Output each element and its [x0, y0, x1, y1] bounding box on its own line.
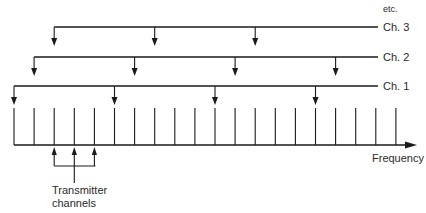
- channel-arrowhead: [152, 38, 158, 46]
- etc-label: etc.: [383, 4, 398, 14]
- frequency-slots: [14, 108, 396, 145]
- transmitter-bracket: [52, 147, 97, 183]
- transmitter-arrowhead: [72, 147, 77, 155]
- channel-arrowhead: [132, 68, 138, 76]
- channel-label: Ch. 2: [383, 51, 409, 63]
- channel-arrowhead: [51, 38, 57, 46]
- channel-label: Ch. 3: [383, 21, 409, 33]
- channel-arrowhead: [212, 97, 218, 105]
- channel-1: Ch. 1: [11, 80, 409, 105]
- channel-arrowhead: [11, 97, 17, 105]
- frequency-axis-arrowhead: [405, 142, 417, 149]
- channel-arrowhead: [31, 68, 37, 76]
- transmitter-label-line1: Transmitter: [52, 184, 108, 196]
- channel-arrowhead: [112, 97, 118, 105]
- channel-rails: Ch. 1Ch. 2Ch. 3: [11, 21, 409, 105]
- channel-3: Ch. 3: [51, 21, 409, 46]
- frequency-axis-label: Frequency: [372, 152, 424, 164]
- channel-arrowhead: [333, 68, 339, 76]
- transmitter-label-line2: channels: [52, 197, 97, 209]
- channel-label: Ch. 1: [383, 80, 409, 92]
- channel-diagram: Frequency Ch. 1Ch. 2Ch. 3 etc. Transmitt…: [0, 0, 426, 213]
- channel-arrowhead: [252, 38, 258, 46]
- channel-arrowhead: [232, 68, 238, 76]
- transmitter-arrowhead: [52, 147, 57, 155]
- channel-arrowhead: [313, 97, 319, 105]
- channel-2: Ch. 2: [31, 51, 409, 76]
- transmitter-arrowhead: [92, 147, 97, 155]
